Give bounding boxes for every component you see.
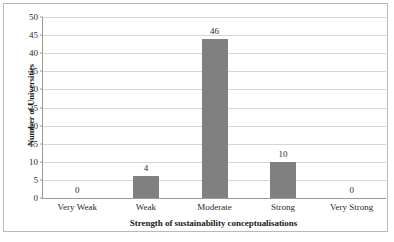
x-axis-tick-label: Strong <box>246 202 320 212</box>
data-label: 0 <box>349 185 354 195</box>
y-axis-tick-label: 45 <box>29 30 38 40</box>
y-axis-tick-label: 30 <box>29 84 38 94</box>
x-axis-tick-word: Very <box>330 202 347 212</box>
data-label: 0 <box>75 185 80 195</box>
y-axis-tick-mark <box>40 17 43 18</box>
x-axis-tick-label: Very Weak <box>40 202 114 212</box>
x-axis-tick-word: Strong <box>349 202 373 212</box>
x-axis-tick-label: Moderate <box>178 202 252 212</box>
x-axis-tick-word: Strong <box>271 202 295 212</box>
y-axis-tick-mark <box>40 125 43 126</box>
bar <box>270 162 296 198</box>
y-axis-tick-mark <box>40 35 43 36</box>
bar <box>202 39 228 198</box>
x-axis-tick-label: Weak <box>109 202 183 212</box>
y-axis-tick-mark <box>40 161 43 162</box>
y-axis-tick-mark <box>40 107 43 108</box>
y-axis-tick-mark <box>40 71 43 72</box>
y-axis-tick-label: 35 <box>29 66 38 76</box>
y-axis-tick-label: 50 <box>29 12 38 22</box>
y-axis-tick-label: 25 <box>29 103 38 113</box>
data-label: 10 <box>279 149 288 159</box>
x-axis-title: Strength of sustainability conceptualisa… <box>42 218 385 228</box>
x-axis-tick-word: Weak <box>77 202 97 212</box>
y-axis-tick-label: 20 <box>29 121 38 131</box>
data-label: 4 <box>144 163 149 173</box>
x-axis-tick-word: Weak <box>136 202 156 212</box>
x-axis-tick-word: Very <box>58 202 75 212</box>
y-axis-tick-label: 5 <box>34 175 39 185</box>
x-axis-tick-label: Very Strong <box>315 202 389 212</box>
y-axis-tick-mark <box>40 53 43 54</box>
plot-area: 05101520253035404550 0446100 Very WeakWe… <box>42 17 386 199</box>
chart-frame: Number of Universities 05101520253035404… <box>3 3 388 232</box>
y-axis-tick-mark <box>40 179 43 180</box>
y-axis-tick-mark <box>40 198 43 199</box>
y-axis-tick-mark <box>40 89 43 90</box>
y-axis-tick-mark <box>40 143 43 144</box>
bar <box>133 176 159 198</box>
y-axis-tick-label: 15 <box>29 139 38 149</box>
y-axis-tick-label: 40 <box>29 48 38 58</box>
y-axis-tick-label: 10 <box>29 157 38 167</box>
gridline <box>43 17 386 18</box>
x-axis-tick-word: Moderate <box>197 202 231 212</box>
data-label: 46 <box>210 26 219 36</box>
y-axis-tick-label: 0 <box>34 193 39 203</box>
